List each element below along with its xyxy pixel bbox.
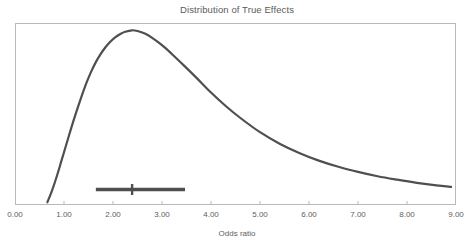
plot-area-frame <box>15 23 456 205</box>
x-axis-tick-label: 7.00 <box>350 210 366 220</box>
x-axis-tick-label: 8.00 <box>399 210 415 220</box>
x-axis-tick-label: 0.00 <box>7 210 23 220</box>
chart-title: Distribution of True Effects <box>0 4 474 16</box>
x-axis-tick-label-row: 0.001.002.003.004.005.006.007.008.009.00 <box>0 210 474 222</box>
x-axis-tick-label: 5.00 <box>252 210 268 220</box>
chart-figure: Distribution of True Effects 0.001.002.0… <box>0 0 474 247</box>
x-axis-tick-label: 6.00 <box>301 210 317 220</box>
x-axis-tick-label: 4.00 <box>203 210 219 220</box>
x-axis-title: Odds ratio <box>0 229 474 239</box>
x-axis-tick-label: 1.00 <box>56 210 72 220</box>
x-axis-tick-label: 3.00 <box>154 210 170 220</box>
x-axis-tick-label: 9.00 <box>448 210 464 220</box>
x-axis-tick-label: 2.00 <box>105 210 121 220</box>
